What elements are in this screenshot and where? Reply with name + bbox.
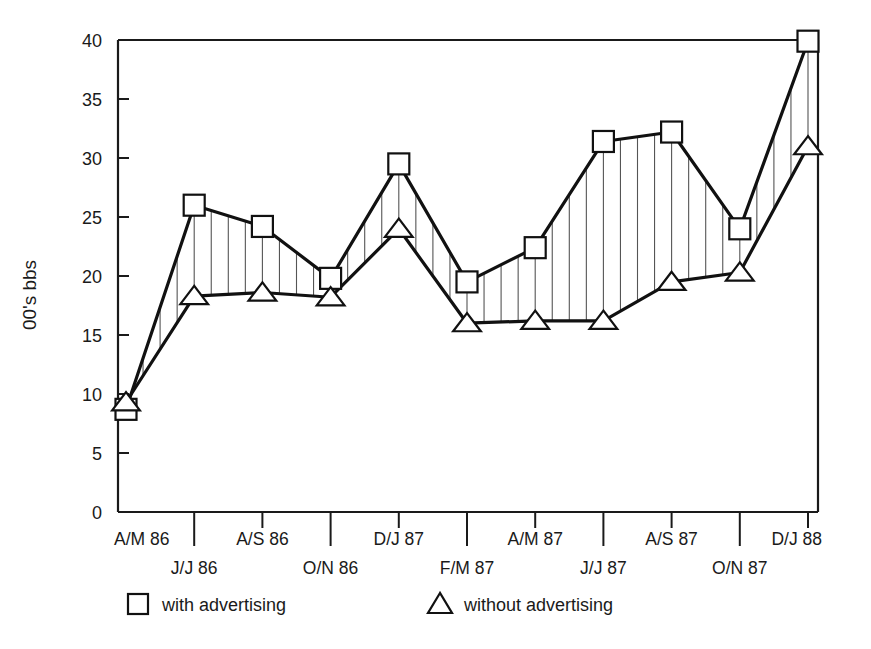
- y-tick-label: 30: [82, 149, 102, 169]
- y-tick-label: 20: [82, 267, 102, 287]
- square-marker-icon: [729, 218, 750, 239]
- x-tick-label: J/J 86: [171, 558, 218, 578]
- square-marker-icon: [252, 216, 273, 237]
- square-marker-icon: [457, 271, 478, 292]
- line-chart-canvas: 00's bbs 0510152025303540 A/M 86J/J 86A/…: [0, 0, 871, 649]
- y-tick-label: 15: [82, 326, 102, 346]
- x-tick-label: D/J 87: [374, 529, 425, 549]
- square-marker-icon: [525, 237, 546, 258]
- y-tick-label: 10: [82, 385, 102, 405]
- x-tick-label: O/N 87: [712, 558, 767, 578]
- square-marker-icon: [184, 195, 205, 216]
- square-marker-icon: [593, 131, 614, 152]
- chart-figure: 00's bbs 0510152025303540 A/M 86J/J 86A/…: [0, 0, 871, 649]
- x-tick-label: F/M 87: [440, 558, 494, 578]
- y-tick-label: 5: [92, 444, 102, 464]
- square-marker-icon: [661, 122, 682, 143]
- legend-label: without advertising: [463, 595, 613, 615]
- x-tick-label: A/S 86: [236, 529, 289, 549]
- x-tick-label: A/M 86: [114, 529, 169, 549]
- legend-label: with advertising: [161, 595, 286, 615]
- y-tick-label: 40: [82, 31, 102, 51]
- x-tick-label: D/J 88: [771, 529, 822, 549]
- x-tick-label: J/J 87: [580, 558, 627, 578]
- y-tick-label: 25: [82, 208, 102, 228]
- x-tick-label: A/M 87: [507, 529, 562, 549]
- y-tick-label: 0: [92, 503, 102, 523]
- chart-background: [0, 0, 871, 649]
- y-axis-title: 00's bbs: [19, 260, 40, 330]
- x-tick-label: A/S 87: [645, 529, 698, 549]
- legend-square-marker-icon: [128, 594, 148, 614]
- square-marker-icon: [798, 31, 819, 52]
- y-tick-label: 35: [82, 90, 102, 110]
- x-tick-label: O/N 86: [303, 558, 358, 578]
- square-marker-icon: [388, 153, 409, 174]
